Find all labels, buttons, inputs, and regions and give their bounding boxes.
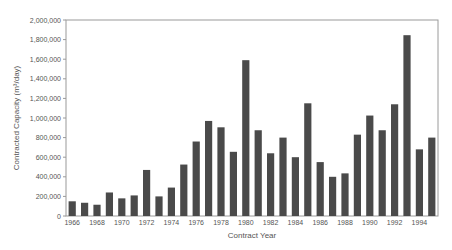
y-tick-label: 0: [57, 213, 61, 220]
bar-1989: [354, 135, 361, 216]
bar-1975: [180, 165, 187, 216]
y-tick-label: 200,000: [36, 193, 61, 200]
x-tick-label: 1992: [387, 219, 403, 226]
bar-1990: [366, 116, 373, 216]
y-tick-label: 800,000: [36, 134, 61, 141]
x-tick-label: 1980: [238, 219, 254, 226]
y-tick-label: 400,000: [36, 173, 61, 180]
bar-1966: [69, 201, 76, 216]
bar-1971: [131, 195, 138, 216]
bar-1974: [168, 188, 175, 216]
x-tick-label: 1974: [164, 219, 180, 226]
bar-1976: [193, 142, 200, 216]
bar-1972: [143, 170, 150, 216]
bar-1982: [267, 153, 274, 216]
x-axis: 1966196819701972197419761978198019821984…: [64, 219, 427, 226]
x-tick-label: 1978: [213, 219, 229, 226]
y-axis-title: Contracted Capacity (m³/day): [12, 65, 21, 170]
bar-1986: [317, 162, 324, 216]
x-tick-label: 1986: [312, 219, 328, 226]
y-tick-label: 1,800,000: [30, 36, 61, 43]
bar-1968: [93, 205, 100, 216]
y-tick-label: 2,000,000: [30, 17, 61, 24]
y-tick-label: 600,000: [36, 154, 61, 161]
bars: [69, 35, 436, 216]
bar-1969: [106, 192, 113, 216]
bar-1979: [230, 152, 237, 216]
x-tick-label: 1982: [263, 219, 279, 226]
x-tick-label: 1972: [139, 219, 155, 226]
bar-1981: [255, 130, 262, 216]
y-tick-label: 1,200,000: [30, 95, 61, 102]
y-axis: 0200,000400,000600,000800,0001,000,0001,…: [30, 17, 66, 220]
bar-1991: [379, 130, 386, 216]
y-tick-label: 1,400,000: [30, 75, 61, 82]
bar-1967: [81, 203, 88, 216]
bar-1980: [242, 60, 249, 216]
bar-1995: [428, 138, 435, 216]
bar-1993: [403, 35, 410, 216]
y-tick-label: 1,000,000: [30, 115, 61, 122]
x-tick-label: 1976: [188, 219, 204, 226]
bar-1985: [304, 103, 311, 216]
x-tick-label: 1966: [64, 219, 80, 226]
bar-1978: [217, 127, 224, 216]
bar-1992: [391, 104, 398, 216]
x-tick-label: 1988: [337, 219, 353, 226]
x-tick-label: 1968: [89, 219, 105, 226]
bar-1983: [279, 138, 286, 216]
bar-1973: [155, 196, 162, 216]
bar-1970: [118, 198, 125, 216]
y-tick-label: 1,600,000: [30, 56, 61, 63]
bar-1987: [329, 177, 336, 216]
bar-1988: [341, 173, 348, 216]
x-tick-label: 1990: [362, 219, 378, 226]
bar-1984: [292, 157, 299, 216]
x-tick-label: 1994: [412, 219, 428, 226]
bar-1977: [205, 121, 212, 216]
bar-1994: [416, 149, 423, 216]
x-axis-title: Contract Year: [228, 231, 277, 240]
bar-chart: 0200,000400,000600,000800,0001,000,0001,…: [0, 0, 452, 250]
x-tick-label: 1970: [114, 219, 130, 226]
x-tick-label: 1984: [288, 219, 304, 226]
